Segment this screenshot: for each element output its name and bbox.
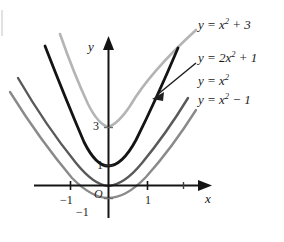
curve-label-lhs: y = x [198, 17, 225, 32]
leader-line-to-2x-squared-curve [157, 63, 196, 95]
curve-label-rhs: + 3 [229, 17, 251, 32]
x-tick-label-1: 1 [145, 194, 151, 206]
curve-label-lhs: y = 2x [198, 50, 231, 65]
curve-label-exponent: 2 [225, 72, 229, 82]
y-tick-label-1: 1 [97, 159, 103, 171]
curve-label-rhs: + 1 [236, 50, 258, 65]
origin-label: O [94, 188, 103, 200]
parabola-family-figure: y = x2 + 3 y = 2x2 + 1 y = x2 y = x2 − 1… [0, 0, 284, 242]
x-tick-label-minus-1: −1 [60, 194, 73, 206]
y-axis-label: y [88, 40, 94, 53]
plot-canvas [0, 0, 284, 242]
curve-y-equals-x-squared-minus-1 [10, 92, 196, 198]
curve-label-2x-squared-plus-1: y = 2x2 + 1 [198, 51, 257, 64]
curve-label-x-squared-minus-1: y = x2 − 1 [198, 93, 251, 106]
y-axis-arrowhead [103, 36, 114, 50]
x-axis-label: x [205, 192, 211, 205]
curve-label-lhs: y = x [198, 73, 225, 88]
curve-label-rhs: − 1 [229, 92, 251, 107]
curve-y-equals-x-squared-plus-3 [60, 30, 196, 127]
x-axis-arrowhead [198, 180, 212, 191]
y-tick-label-3: 3 [93, 120, 99, 132]
y-tick-label-minus-1: −1 [76, 206, 89, 218]
curve-label-lhs: y = x [198, 92, 225, 107]
curve-label-x-squared-plus-3: y = x2 + 3 [198, 18, 251, 31]
curve-label-x-squared: y = x2 [198, 74, 229, 87]
